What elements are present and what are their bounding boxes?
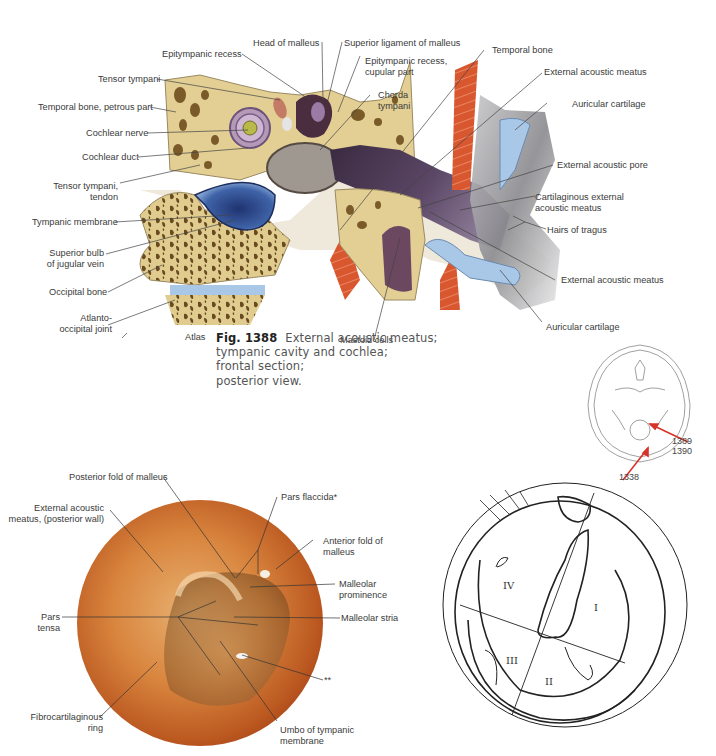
label-umbo-of-tympanic-membrane: Umbo of tympanic membrane	[280, 725, 354, 746]
label-line: Tensor tympani,	[52, 181, 118, 192]
label-external-acoustic-pore: External acoustic pore	[557, 160, 648, 171]
label-hairs-of-tragus: Hairs of tragus	[547, 225, 607, 236]
label-tensor-tympani: Tensor tympani	[98, 74, 160, 85]
label-chorda-tympani: Chorda tympani	[378, 90, 410, 111]
quadrant-iv-label: IV	[503, 580, 514, 591]
label-external-acoustic-meatus-top: External acoustic meatus	[544, 67, 647, 78]
label-line: Anterior fold of	[323, 536, 383, 547]
label-auricular-cartilage-top: Auricular cartilage	[572, 99, 646, 110]
label-double-star: **	[324, 675, 331, 686]
label-head-of-malleus: Head of malleus	[253, 38, 319, 49]
label-line: occipital joint	[50, 324, 112, 335]
figure-ref-1390[interactable]: 1390	[672, 446, 692, 456]
label-temporal-bone: Temporal bone	[492, 45, 553, 56]
figure-ref-1389[interactable]: 1389	[672, 436, 692, 446]
label-line: Cartilaginous external	[535, 192, 624, 203]
label-line: Chorda	[378, 90, 410, 101]
label-line: tympani	[378, 101, 410, 112]
label-line: Epitympanic recess,	[365, 56, 447, 67]
label-tympanic-membrane: Tympanic membrane	[32, 217, 118, 228]
label-line: acoustic meatus	[535, 203, 624, 214]
label-line: tensa	[26, 623, 60, 634]
quadrant-iii-label: III	[506, 655, 518, 666]
figure-number: Fig. 1388	[216, 331, 277, 345]
label-atlas: Atlas	[185, 332, 205, 343]
label-temporal-bone-petrous: Temporal bone, petrous part	[38, 102, 153, 113]
label-line: Fibrocartilaginous	[20, 712, 103, 723]
label-line: ring	[20, 723, 103, 734]
label-occipital-bone: Occipital bone	[49, 287, 107, 298]
label-external-acoustic-meatus-posterior-wall: External acoustic meatus, (posterior wal…	[8, 503, 104, 524]
label-line: Superior bulb	[40, 248, 104, 259]
label-malleolar-prominence: Malleolar prominence	[339, 579, 387, 600]
label-atlanto-occipital-joint: Atlanto- occipital joint	[50, 313, 112, 334]
label-anterior-fold-of-malleus: Anterior fold of malleus	[323, 536, 383, 557]
label-epitympanic-recess: Epitympanic recess	[162, 49, 242, 60]
label-pars-flaccida: Pars flaccida*	[281, 492, 337, 503]
label-tensor-tympani-tendon: Tensor tympani, tendon	[52, 181, 118, 202]
label-superior-ligament-of-malleus: Superior ligament of malleus	[344, 38, 460, 49]
caption-line: External acoustic meatus;	[285, 331, 437, 345]
label-pars-tensa: Pars tensa	[26, 612, 60, 633]
label-line: Atlanto-	[50, 313, 112, 324]
label-external-acoustic-meatus-bottom: External acoustic meatus	[561, 275, 664, 286]
label-line: Umbo of tympanic	[280, 725, 354, 736]
label-line: External acoustic	[8, 503, 104, 514]
label-line: malleus	[323, 547, 383, 558]
label-malleolar-stria: Malleolar stria	[341, 613, 398, 624]
figure-ref-1338[interactable]: 1338	[619, 472, 639, 482]
label-cochlear-nerve: Cochlear nerve	[86, 128, 148, 139]
label-auricular-cartilage-bottom: Auricular cartilage	[546, 322, 620, 333]
label-cochlear-duct: Cochlear duct	[82, 152, 139, 163]
label-line: membrane	[280, 736, 354, 747]
caption-line: frontal section;	[216, 359, 438, 373]
label-line: meatus, (posterior wall)	[8, 514, 104, 525]
caption-line: posterior view.	[216, 374, 438, 388]
quadrant-ii-label: II	[545, 676, 553, 687]
label-fibrocartilaginous-ring: Fibrocartilaginous ring	[20, 712, 103, 733]
label-cartilaginous-external-meatus: Cartilaginous external acoustic meatus	[535, 192, 624, 213]
label-line: prominence	[339, 590, 387, 601]
label-line: cupular part	[365, 67, 447, 78]
label-line: Malleolar	[339, 579, 387, 590]
label-superior-bulb: Superior bulb of jugular vein	[40, 248, 104, 269]
label-epitympanic-recess-cupular: Epitympanic recess, cupular part	[365, 56, 447, 77]
label-line: Pars	[26, 612, 60, 623]
label-line: tendon	[52, 192, 118, 203]
label-line: of jugular vein	[40, 259, 104, 270]
label-posterior-fold-of-malleus: Posterior fold of malleus	[69, 472, 168, 483]
figure-caption: Fig. 1388External acoustic meatus; tympa…	[216, 331, 438, 388]
quadrant-i-label: I	[594, 602, 598, 613]
quadrant-diagram	[443, 483, 687, 727]
caption-line: tympanic cavity and cochlea;	[216, 345, 438, 359]
